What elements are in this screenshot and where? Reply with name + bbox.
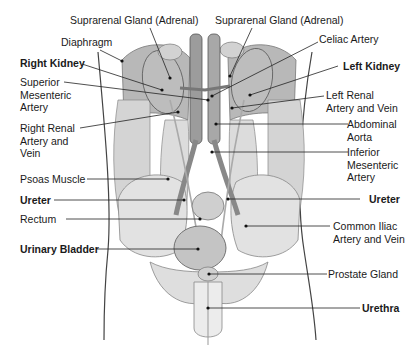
- label-left-renal-artery-vein: Left Renal Artery and Vein: [326, 89, 398, 114]
- label-right-kidney: Right Kidney: [20, 57, 85, 70]
- label-abdominal-aorta: Abdominal Aorta: [347, 118, 397, 143]
- label-ureter-right: Ureter: [369, 193, 400, 206]
- label-ureter-left: Ureter: [20, 194, 51, 207]
- label-celiac-artery: Celiac Artery: [319, 33, 379, 46]
- label-prostate-gland: Prostate Gland: [328, 268, 398, 281]
- label-suprarenal-gland-left: Suprarenal Gland (Adrenal): [215, 14, 343, 27]
- label-urinary-bladder: Urinary Bladder: [20, 243, 99, 256]
- label-left-kidney: Left Kidney: [343, 60, 400, 73]
- left-adrenal-shape: [220, 42, 244, 58]
- urinary-system-diagram: Suprarenal Gland (Adrenal) Diaphragm Rig…: [0, 0, 418, 362]
- label-rectum: Rectum: [20, 213, 56, 226]
- bladder-shape: [174, 226, 226, 270]
- label-common-iliac-artery-vein: Common Iliac Artery and Vein: [333, 220, 405, 245]
- label-inferior-mesenteric-artery: Inferior Mesenteric Artery: [347, 146, 398, 184]
- label-right-renal-artery-vein: Right Renal Artery and Vein: [20, 122, 75, 160]
- rectum-shape: [192, 192, 224, 220]
- label-diaphragm: Diaphragm: [61, 36, 112, 49]
- label-psoas-muscle: Psoas Muscle: [20, 173, 85, 186]
- body-outline-right: [300, 52, 316, 340]
- label-superior-mesenteric-artery: Superior Mesenteric Artery: [20, 76, 71, 114]
- iliac-wing-left: [231, 175, 300, 257]
- body-outline-left: [98, 52, 109, 340]
- label-urethra: Urethra: [362, 302, 399, 315]
- label-suprarenal-gland-right: Suprarenal Gland (Adrenal): [70, 14, 198, 27]
